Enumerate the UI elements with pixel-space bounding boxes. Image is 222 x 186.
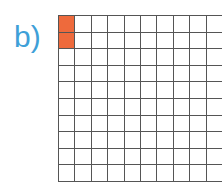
grid-cell	[174, 165, 190, 182]
grid-cell	[207, 165, 222, 182]
grid-cell	[125, 16, 141, 33]
grid-cell	[125, 165, 141, 182]
grid-cell	[141, 132, 157, 149]
grid-cell	[157, 132, 173, 149]
grid-cell	[190, 99, 206, 116]
grid-cell	[108, 49, 124, 66]
part-label: b)	[14, 22, 41, 52]
grid-cell	[157, 149, 173, 166]
grid-cell	[59, 66, 75, 83]
grid-cell	[108, 66, 124, 83]
grid-cell	[207, 33, 222, 50]
grid-cell	[125, 149, 141, 166]
grid-cell	[190, 149, 206, 166]
grid-cell	[190, 66, 206, 83]
grid-cell	[190, 82, 206, 99]
grid-cell	[59, 149, 75, 166]
grid-cell	[92, 82, 108, 99]
grid-cell	[108, 16, 124, 33]
grid-cell	[207, 82, 222, 99]
hundred-grid	[58, 15, 222, 182]
grid-cell	[125, 99, 141, 116]
grid-cell	[59, 116, 75, 133]
grid-cell	[75, 82, 91, 99]
grid-cell	[141, 33, 157, 50]
grid-cell	[125, 66, 141, 83]
grid-cell	[92, 165, 108, 182]
grid-cell	[141, 16, 157, 33]
grid-cell	[125, 82, 141, 99]
grid-cell	[174, 66, 190, 83]
grid-cell	[174, 132, 190, 149]
grid-cell	[108, 33, 124, 50]
grid-cell	[125, 33, 141, 50]
grid-cell	[141, 99, 157, 116]
grid-cell	[92, 132, 108, 149]
grid-cell	[59, 132, 75, 149]
grid-cell	[174, 116, 190, 133]
grid-cell	[92, 66, 108, 83]
grid-cell	[207, 49, 222, 66]
grid-cell	[174, 99, 190, 116]
grid-cell	[141, 49, 157, 66]
grid-cell	[59, 165, 75, 182]
grid-cell	[157, 66, 173, 83]
grid-cell	[157, 116, 173, 133]
grid-cell	[141, 116, 157, 133]
grid-cell	[75, 165, 91, 182]
grid-cell	[174, 33, 190, 50]
grid-cell	[190, 116, 206, 133]
grid-cell	[207, 66, 222, 83]
grid-cell	[190, 33, 206, 50]
grid-cell	[174, 16, 190, 33]
grid-cell	[141, 82, 157, 99]
grid-cell	[75, 116, 91, 133]
grid-cell	[92, 49, 108, 66]
grid-cell	[174, 82, 190, 99]
grid-cell-filled	[59, 16, 75, 33]
grid-cell	[157, 82, 173, 99]
grid-cell	[141, 66, 157, 83]
grid-cell	[92, 99, 108, 116]
grid-cell	[59, 49, 75, 66]
grid-cell	[59, 82, 75, 99]
grid-cell	[174, 49, 190, 66]
grid-cell	[92, 149, 108, 166]
grid-cell	[75, 16, 91, 33]
grid-cell	[157, 99, 173, 116]
grid-cell	[190, 16, 206, 33]
grid-cell	[125, 49, 141, 66]
grid-cell	[207, 149, 222, 166]
grid-cell	[174, 149, 190, 166]
grid-cell	[190, 165, 206, 182]
grid-cell	[157, 16, 173, 33]
grid-cell	[125, 116, 141, 133]
grid-cell	[157, 165, 173, 182]
grid-cell	[207, 116, 222, 133]
grid-cell	[190, 132, 206, 149]
grid-cell-filled	[59, 33, 75, 50]
grid-cell	[59, 99, 75, 116]
grid-cell	[75, 132, 91, 149]
grid-cell	[75, 99, 91, 116]
grid-cell	[92, 33, 108, 50]
grid-cell	[125, 132, 141, 149]
grid-cell	[157, 33, 173, 50]
grid-cell	[108, 149, 124, 166]
grid-cell	[190, 49, 206, 66]
grid-cell	[108, 132, 124, 149]
grid-cell	[75, 149, 91, 166]
grid-cell	[108, 82, 124, 99]
grid-cell	[92, 116, 108, 133]
grid-cell	[108, 99, 124, 116]
grid-cell	[141, 165, 157, 182]
grid-cell	[207, 99, 222, 116]
grid-cell	[108, 165, 124, 182]
grid-cell	[141, 149, 157, 166]
grid-cell	[75, 49, 91, 66]
grid-cell	[75, 33, 91, 50]
grid-cell	[157, 49, 173, 66]
grid-cell	[108, 116, 124, 133]
grid-cell	[75, 66, 91, 83]
grid-cell	[92, 16, 108, 33]
